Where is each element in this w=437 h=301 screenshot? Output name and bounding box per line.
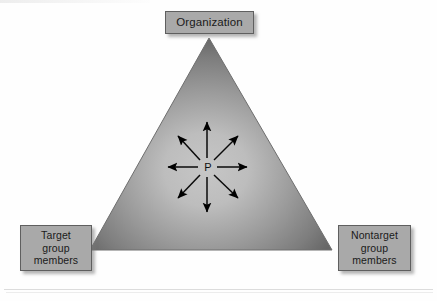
node-box-nontarget-group-members[interactable]: Nontarget group members <box>338 225 411 271</box>
node-label-line: members <box>352 254 396 266</box>
node-label-line: Nontarget <box>351 229 398 241</box>
figure-container: P Organization Target group members Nont… <box>0 0 437 301</box>
center-label-p: P <box>200 159 216 175</box>
node-box-target-group-members[interactable]: Target group members <box>20 225 92 271</box>
top-edge-artifact <box>0 0 150 3</box>
node-label-line: group <box>42 242 69 254</box>
node-label-line: Target <box>41 229 71 241</box>
node-label-line: group <box>361 242 388 254</box>
bottom-divider-rule <box>4 289 433 290</box>
node-label-line: Organization <box>176 16 242 30</box>
triangle-shape <box>90 38 332 250</box>
node-label-line: members <box>34 254 78 266</box>
bottom-divider-rule-secondary <box>6 292 433 293</box>
node-box-organization[interactable]: Organization <box>165 11 254 34</box>
